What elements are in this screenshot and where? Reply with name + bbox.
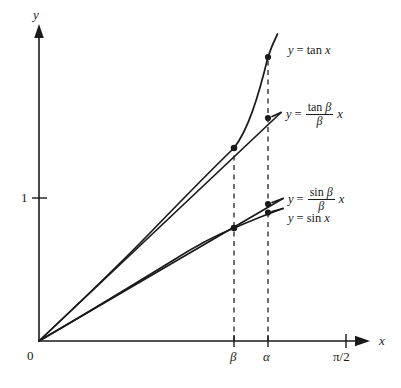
curve-label-tan-x-equals: = xyxy=(297,44,304,57)
trigonometric-comparison-figure: y x 1 0 β α π/2 y = tan x y = tanβ β x y… xyxy=(0,0,401,388)
point-sin-x-at-alpha xyxy=(265,209,271,215)
x-tick-label-pi-over-2: π/2 xyxy=(333,350,350,363)
x-axis-arrowhead xyxy=(355,336,370,346)
curve-label-tan-chord-equals: = xyxy=(295,108,302,121)
curve-label-tan-chord-numerator-function: tan xyxy=(308,100,323,114)
dashed-guides-group xyxy=(234,55,268,341)
curve-label-sin-chord: y = sinβ β x xyxy=(288,186,344,212)
curve-label-sin-chord-numerator-function: sin xyxy=(310,185,324,199)
curve-label-tan-x-function: tan xyxy=(307,44,322,57)
curve-label-tan-chord-numerator-greek: β xyxy=(325,100,331,114)
curve-label-tan-chord-lhs: y xyxy=(286,108,292,121)
point-sin-chord-at-alpha xyxy=(265,201,271,207)
curve-label-tan-chord-denominator: β xyxy=(314,115,324,128)
curve-label-tan-chord: y = tanβ β x xyxy=(286,101,343,127)
origin-label: 0 xyxy=(27,349,34,362)
curve-label-sin-chord-fraction: sinβ β xyxy=(308,186,335,212)
curve-label-sin-chord-variable: x xyxy=(339,193,345,206)
curve-label-sin-chord-lhs: y xyxy=(288,193,294,206)
y-axis-label: y xyxy=(33,8,39,21)
x-tick-label-beta: β xyxy=(230,350,236,363)
curve-label-tan-chord-numerator: tanβ xyxy=(306,101,334,114)
point-tan-intersection-at-beta xyxy=(231,145,238,152)
y-tick-label-1: 1 xyxy=(21,191,28,204)
curve-label-sin-chord-equals: = xyxy=(297,193,304,206)
curve-label-sin-x-variable: x xyxy=(324,212,330,225)
point-tan-x-at-alpha xyxy=(265,54,271,60)
curve-label-tan-chord-fraction: tanβ β xyxy=(306,101,334,127)
x-axis-label: x xyxy=(379,334,385,347)
marked-points-group xyxy=(231,54,271,231)
curve-label-sin-x-lhs: y xyxy=(288,212,294,225)
point-sin-intersection-at-beta xyxy=(231,225,238,232)
curve-label-tan-chord-variable: x xyxy=(337,108,343,121)
curve-label-sin-chord-numerator-greek: β xyxy=(327,185,333,199)
curve-sin-x xyxy=(39,209,283,342)
curve-label-sin-chord-numerator: sinβ xyxy=(308,186,335,199)
point-tan-chord-at-alpha xyxy=(265,115,271,121)
line-tan-chord xyxy=(39,113,281,342)
curve-tan-x xyxy=(39,34,278,341)
curve-label-tan-x-variable: x xyxy=(325,44,331,57)
curve-label-sin-x-equals: = xyxy=(297,212,304,225)
curve-label-tan-x-lhs: y xyxy=(288,44,294,57)
curve-label-sin-x: y = sin x xyxy=(288,212,330,225)
curve-label-tan-x: y = tan x xyxy=(288,44,330,57)
x-tick-label-alpha: α xyxy=(263,350,270,363)
curve-label-sin-x-function: sin xyxy=(307,212,322,225)
y-axis-arrowhead xyxy=(34,24,44,38)
label-leaders-group xyxy=(272,113,283,212)
